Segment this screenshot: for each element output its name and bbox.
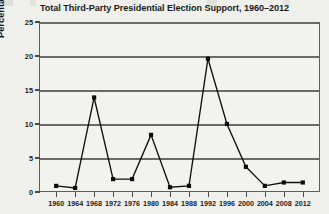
y-tick-label-0: 0 [7, 188, 33, 197]
y-tick-mark-0 [35, 191, 40, 192]
gridline-20 [40, 56, 319, 57]
x-tick-mark-2004 [265, 192, 266, 197]
x-tick-mark-1980 [151, 192, 152, 197]
chart-figure: Total Third-Party Presidential Election … [0, 0, 329, 214]
y-tick-label-15: 15 [7, 86, 33, 95]
x-tick-mark-1972 [113, 192, 114, 197]
y-tick-mark-5 [35, 157, 40, 158]
x-tick-mark-2012 [303, 192, 304, 197]
y-tick-label-20: 20 [7, 52, 33, 61]
gridline-10 [40, 124, 319, 125]
x-tick-mark-1992 [208, 192, 209, 197]
y-tick-mark-25 [35, 21, 40, 22]
y-tick-mark-20 [35, 55, 40, 56]
x-tick-mark-1996 [227, 192, 228, 197]
x-tick-mark-1984 [170, 192, 171, 197]
gridline-5 [40, 158, 319, 159]
y-tick-label-10: 10 [7, 120, 33, 129]
x-tick-mark-2008 [284, 192, 285, 197]
gridline-15 [40, 90, 319, 91]
y-tick-label-25: 25 [7, 18, 33, 27]
x-tick-mark-1988 [189, 192, 190, 197]
y-tick-label-5: 5 [7, 154, 33, 163]
x-tick-label-2012: 2012 [288, 199, 318, 208]
chart-title: Total Third-Party Presidential Election … [0, 3, 329, 13]
x-tick-mark-1968 [94, 192, 95, 197]
y-tick-mark-15 [35, 89, 40, 90]
x-tick-mark-1964 [75, 192, 76, 197]
x-tick-mark-1960 [56, 192, 57, 197]
x-tick-mark-2000 [246, 192, 247, 197]
y-tick-mark-10 [35, 123, 40, 124]
plot-area [39, 22, 320, 192]
x-tick-mark-1976 [132, 192, 133, 197]
gridline-25 [40, 22, 319, 23]
y-axis-title: Percentage of popular vote [0, 0, 6, 38]
